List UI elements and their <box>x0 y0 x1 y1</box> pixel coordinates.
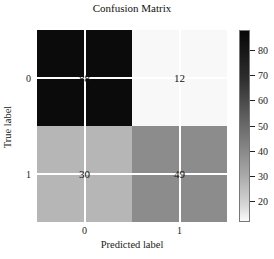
colorbar-tick-label: 40 <box>258 146 268 157</box>
colorbar-tick-label: 80 <box>258 45 268 56</box>
colorbar-gradient <box>239 30 250 222</box>
gridline-vertical-col0 <box>84 30 86 222</box>
chart-title: Confusion Matrix <box>37 2 227 14</box>
colorbar-tick-label: 60 <box>258 95 268 106</box>
heatmap-plot: 88 12 30 49 <box>37 30 227 222</box>
colorbar-tick-label: 50 <box>258 121 268 132</box>
colorbar-tick-mark <box>250 151 255 152</box>
cell-value-0-1: 12 <box>160 72 200 84</box>
y-axis-label: True label <box>2 82 16 172</box>
cell-value-0-0: 88 <box>65 72 105 84</box>
x-tick-0: 0 <box>75 225 95 236</box>
colorbar-tick-mark <box>250 50 255 51</box>
colorbar-tick-mark <box>250 75 255 76</box>
colorbar-tick-label: 70 <box>258 70 268 81</box>
cell-value-1-0: 30 <box>65 168 105 180</box>
colorbar-tick-label: 30 <box>258 171 268 182</box>
confusion-matrix-figure: Confusion Matrix 88 12 30 49 0 1 True la… <box>0 0 274 259</box>
colorbar-tick-mark <box>250 201 255 202</box>
x-tick-1: 1 <box>170 225 190 236</box>
colorbar-tick-mark <box>250 176 255 177</box>
cell-value-1-1: 49 <box>160 168 200 180</box>
x-axis-label: Predicted label <box>37 239 227 250</box>
colorbar-tick-mark <box>250 126 255 127</box>
gridline-vertical-col1 <box>179 30 181 222</box>
colorbar-tick-label: 20 <box>258 196 268 207</box>
colorbar-tick-mark <box>250 100 255 101</box>
